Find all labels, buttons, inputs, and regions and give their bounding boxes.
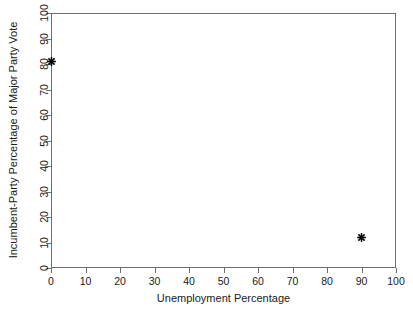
x-axis-title: Unemployment Percentage — [51, 292, 396, 304]
x-axis-tick — [86, 268, 87, 273]
scatter-plot-figure: Unemployment Percentage Incumbent-Party … — [0, 0, 413, 313]
y-axis-tick-label: 40 — [38, 166, 50, 178]
y-axis-tick-label: 70 — [38, 90, 50, 102]
data-point-marker — [356, 232, 367, 243]
y-axis-tick-label: 20 — [38, 217, 50, 229]
y-axis-tick-label: 100 — [38, 13, 50, 31]
x-axis-tick — [396, 268, 397, 273]
x-axis-tick — [189, 268, 190, 273]
y-axis-tick-label: 30 — [38, 192, 50, 204]
x-axis-tick — [51, 268, 52, 273]
y-axis-tick-label: 60 — [38, 115, 50, 127]
x-axis-tick — [258, 268, 259, 273]
x-axis-tick — [293, 268, 294, 273]
y-axis-tick-label: 90 — [38, 39, 50, 51]
x-axis-tick — [224, 268, 225, 273]
x-axis-tick — [155, 268, 156, 273]
x-axis-tick — [327, 268, 328, 273]
data-point-marker — [46, 56, 57, 67]
x-axis-tick — [362, 268, 363, 273]
x-axis-tick — [120, 268, 121, 273]
y-axis-tick-label: 50 — [38, 141, 50, 153]
y-axis-tick-label: 10 — [38, 243, 50, 255]
y-axis-tick-label: 0 — [38, 268, 50, 274]
plot-data-area — [51, 13, 396, 268]
x-axis-tick-label: 100 — [376, 275, 413, 287]
y-axis-title: Incumbent-Party Percentage of Major Part… — [7, 22, 19, 259]
